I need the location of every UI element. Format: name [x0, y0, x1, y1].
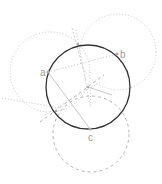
helper-circle-b [80, 14, 156, 90]
point-tangent-left [55, 110, 57, 112]
point-c [88, 127, 91, 130]
bisector-diagonal [40, 75, 104, 122]
tangent-line-top [72, 28, 86, 80]
vertical-drop [90, 87, 91, 106]
point-tangent-top [77, 43, 79, 45]
label-b: b [120, 49, 126, 60]
diagram-canvas: a b c [0, 0, 162, 184]
label-c: c [88, 132, 93, 143]
point-a [46, 70, 49, 73]
label-a: a [40, 67, 46, 78]
line-center-b [88, 87, 112, 95]
point-b [115, 52, 118, 55]
point-center [87, 86, 89, 88]
